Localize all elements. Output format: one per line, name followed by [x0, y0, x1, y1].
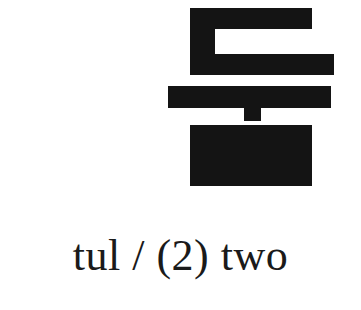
rieul-bottom-stroke: [190, 165, 312, 186]
caption-text: tul / (2) two: [0, 228, 361, 284]
flashcard: tul / (2) two: [0, 0, 361, 310]
hangul-syllable-glyph: [168, 8, 332, 190]
digeut-bottom-stroke: [190, 54, 334, 75]
vowel-u-horizontal-stroke: [168, 86, 331, 108]
vowel-u-vertical-stroke: [244, 107, 261, 121]
